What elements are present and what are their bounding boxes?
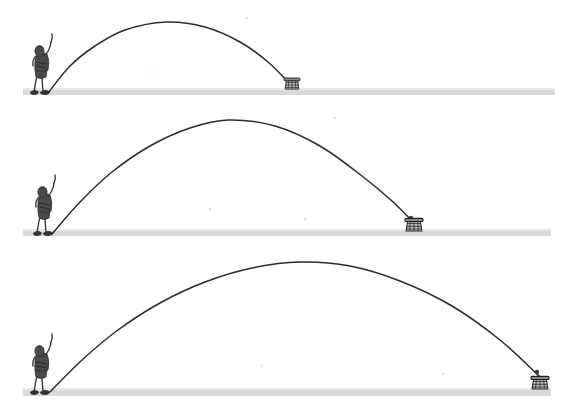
trajectory-arc-3 bbox=[50, 262, 540, 392]
thrower-figure-2 bbox=[33, 175, 55, 236]
paper-speck bbox=[442, 373, 444, 375]
ground-line-3-highlight bbox=[23, 388, 551, 390]
panel-3 bbox=[23, 262, 551, 396]
thrower-figure-3 bbox=[30, 334, 52, 395]
ground-line-2-highlight bbox=[23, 229, 551, 231]
scene-canvas bbox=[0, 0, 577, 416]
projectile-figure: Projectile motion: three throws of incre… bbox=[0, 0, 577, 416]
paper-speck bbox=[151, 71, 153, 73]
paper-speck bbox=[304, 218, 306, 220]
paper-speck bbox=[261, 365, 263, 367]
paper-speck bbox=[246, 17, 248, 19]
thrower-figure-1 bbox=[30, 34, 52, 95]
trajectory-arc-2 bbox=[52, 120, 414, 234]
panel-1 bbox=[23, 17, 555, 95]
ball-3 bbox=[535, 370, 539, 374]
basket-3 bbox=[531, 376, 549, 389]
basket-1 bbox=[284, 78, 300, 89]
basket-2 bbox=[405, 218, 423, 231]
paper-speck bbox=[209, 208, 211, 210]
trajectory-arc-1 bbox=[48, 22, 292, 93]
paper-speck bbox=[334, 117, 336, 119]
panel-2 bbox=[23, 117, 551, 236]
